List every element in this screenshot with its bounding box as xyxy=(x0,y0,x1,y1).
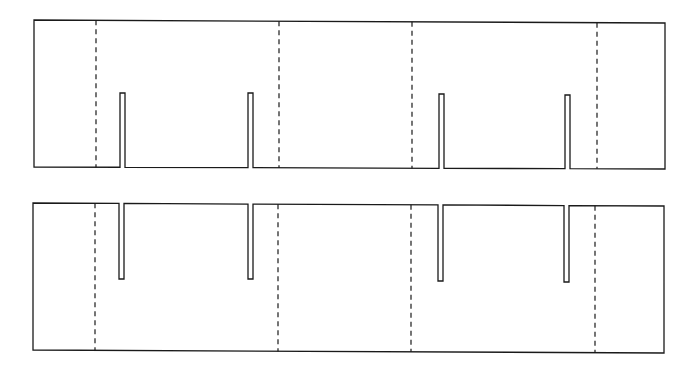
top-blank-outline xyxy=(34,20,665,169)
bottom-blank-fold-lines xyxy=(95,203,595,352)
bottom-blank-outline xyxy=(33,203,664,353)
top-blank xyxy=(34,20,665,169)
die-cut-diagram xyxy=(0,0,699,376)
bottom-blank xyxy=(33,203,664,353)
top-blank-fold-lines xyxy=(96,20,597,168)
